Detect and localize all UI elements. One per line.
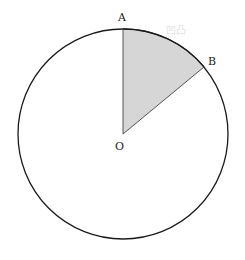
shaded-sector-aob bbox=[123, 29, 204, 134]
label-b: B bbox=[208, 55, 216, 68]
label-a: A bbox=[117, 11, 127, 24]
circle-sector-diagram: 凹凸 A B O bbox=[0, 0, 245, 260]
watermark: 凹凸 bbox=[166, 25, 186, 36]
label-o: O bbox=[115, 140, 124, 153]
